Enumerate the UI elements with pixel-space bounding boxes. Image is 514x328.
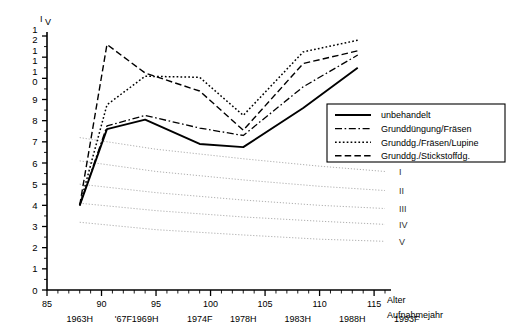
- x-tick-label: 110: [312, 299, 326, 309]
- y-tick-label: 2: [32, 242, 37, 253]
- y-tick-label: 6: [32, 158, 37, 169]
- y-tick-label: 3: [32, 221, 37, 232]
- y-tick-label: 7: [32, 136, 37, 147]
- survey-year-label: 1963H: [66, 314, 93, 324]
- survey-year-label: 1988H: [339, 314, 366, 324]
- reference-line-label: IV: [399, 220, 408, 230]
- reference-line-label: V: [399, 237, 405, 247]
- y-tick-label: 1: [32, 55, 37, 66]
- y-tick-label: 2: [32, 34, 37, 45]
- x-tick-label: 115: [367, 299, 381, 309]
- x-tick-label: 105: [258, 299, 273, 309]
- survey-year-label: 1969H: [132, 314, 159, 324]
- legend-label[interactable]: Grunddüngung/Fräsen: [381, 124, 472, 134]
- survey-year-label: 1974F: [187, 314, 213, 324]
- legend-label[interactable]: unbehandelt: [381, 110, 431, 120]
- x-tick-label: 100: [203, 299, 218, 309]
- x-tick-label: 95: [151, 299, 161, 309]
- x-axis-title-year: Aufnahmejahr: [387, 310, 443, 320]
- y-tick-label: 0: [32, 76, 37, 87]
- survey-year-label: 1983H: [285, 314, 312, 324]
- y-tick-label: 8: [32, 115, 37, 126]
- y-tick-label: 5: [32, 179, 37, 190]
- x-tick-label: 85: [42, 299, 52, 309]
- y-tick-label: 4: [32, 200, 37, 211]
- increment-chart: 0123456789101112 859095100105110115 1963…: [0, 0, 514, 328]
- y-axis-title-sub: V: [45, 17, 51, 27]
- y-tick-label: 0: [32, 285, 37, 296]
- x-tick-label: 90: [97, 299, 107, 309]
- reference-line-label: III: [399, 204, 407, 214]
- survey-year-label: '67F: [115, 314, 133, 324]
- y-tick-label: 9: [32, 94, 37, 105]
- x-axis-title-age: Alter: [387, 295, 406, 305]
- chart-legend[interactable]: unbehandeltGrunddüngung/FräsenGrunddg./F…: [327, 104, 505, 162]
- legend-label[interactable]: Grunddg./Stickstoffdg.: [381, 151, 470, 161]
- chart-page: 0123456789101112 859095100105110115 1963…: [0, 0, 514, 328]
- reference-line-label: I: [399, 167, 402, 177]
- plot-background: [0, 0, 514, 328]
- y-tick-label: 1: [32, 263, 37, 274]
- y-axis-title-main: I: [40, 14, 43, 24]
- legend-label[interactable]: Grunddg./Fräsen/Lupine: [381, 138, 479, 148]
- survey-year-label: 1978H: [230, 314, 257, 324]
- reference-line-label: II: [399, 186, 404, 196]
